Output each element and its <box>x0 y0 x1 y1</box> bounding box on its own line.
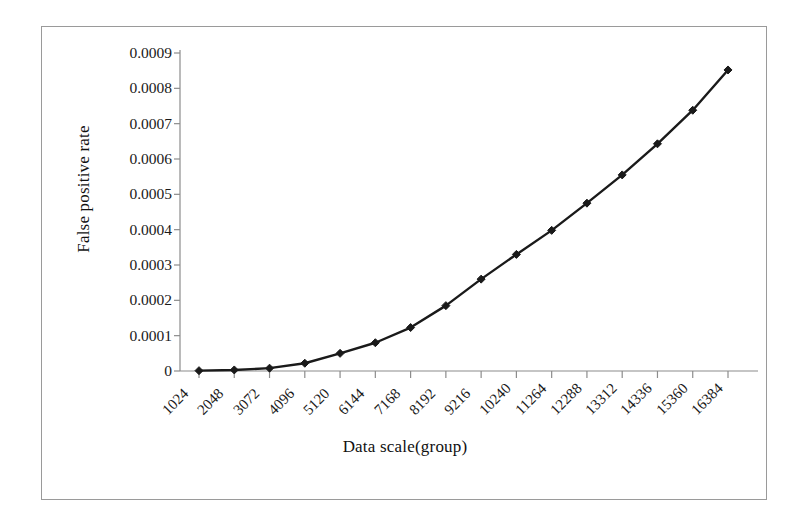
y-axis-title: False positive rate <box>74 99 94 279</box>
chart-figure-frame: 00.00010.00020.00030.00040.00050.00060.0… <box>41 26 767 500</box>
x-axis-tick-label: 15360 <box>653 381 690 418</box>
x-axis-title: Data scale(group) <box>42 437 768 457</box>
x-axis-tick-label: 4096 <box>265 386 297 418</box>
x-axis-tick-label: 5120 <box>301 386 333 418</box>
x-axis-tick-label: 9216 <box>442 386 474 418</box>
x-axis-tick-label: 14336 <box>618 381 655 418</box>
x-axis-tick-label: 8192 <box>407 386 439 418</box>
x-axis-tick-label: 7168 <box>371 386 403 418</box>
x-axis-tick-label: 13312 <box>583 381 620 418</box>
x-axis-tick-label: 2048 <box>195 386 227 418</box>
x-axis-tick-label: 1024 <box>160 386 192 418</box>
chart-canvas: 00.00010.00020.00030.00040.00050.00060.0… <box>42 27 768 501</box>
x-axis-tick-label: 10240 <box>477 381 514 418</box>
x-axis-tick-label: 12288 <box>548 381 585 418</box>
x-axis-tick-label: 3072 <box>230 386 262 418</box>
x-axis-tick-labels: 1024204830724096512061447168819292161024… <box>42 27 768 501</box>
x-axis-tick-label: 6144 <box>336 386 368 418</box>
x-axis-tick-label: 11264 <box>512 381 549 418</box>
x-axis-tick-label: 16384 <box>689 381 726 418</box>
